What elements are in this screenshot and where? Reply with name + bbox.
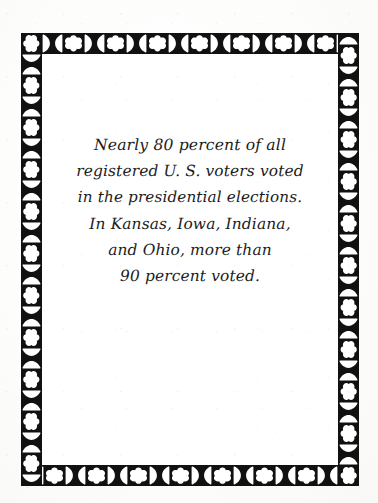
border-motif-strip-right	[338, 33, 359, 486]
quote-line-3: in the presidential elections.	[56, 184, 324, 210]
quote-line-6: 90 percent voted.	[56, 263, 324, 289]
border-band-bottom	[21, 465, 359, 486]
border-band-left	[21, 33, 42, 486]
quote-line-1: Nearly 80 percent of all	[56, 132, 324, 158]
quote-line-4: In Kansas, Iowa, Indiana,	[56, 211, 324, 237]
quote-line-5: and Ohio, more than	[56, 237, 324, 263]
quote-line-2: registered U. S. voters voted	[56, 158, 324, 184]
border-motif-strip-bottom	[21, 465, 359, 486]
border-band-top	[21, 33, 359, 54]
quote-text-block: Nearly 80 percent of all registered U. S…	[42, 132, 338, 289]
border-motif-strip-left	[21, 33, 42, 486]
border-band-right	[338, 33, 359, 486]
inner-writing-field: Nearly 80 percent of all registered U. S…	[42, 54, 338, 465]
card-page: Nearly 80 percent of all registered U. S…	[0, 0, 378, 503]
ornamental-border-frame: Nearly 80 percent of all registered U. S…	[21, 33, 359, 486]
border-motif-strip-top	[21, 33, 359, 54]
